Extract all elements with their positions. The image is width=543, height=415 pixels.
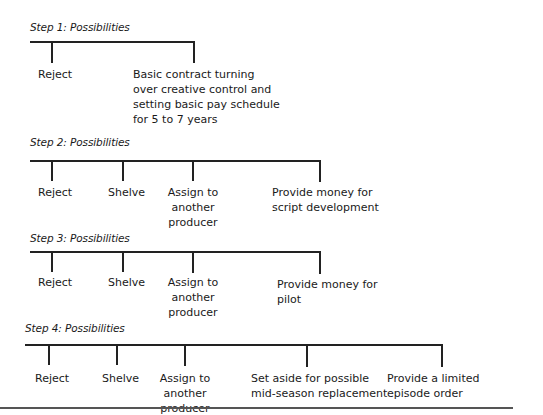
step-1-connector-1 [51,41,53,63]
step-2-title: Step 2: Possibilities [30,136,130,148]
step-1-connector-2 [193,41,195,63]
step-1-branch-line [30,41,195,43]
step-4-connector-3 [184,344,186,366]
step-4-branch-line [25,344,443,346]
step-3-connector-4 [319,251,321,274]
step-2-option-reject: Reject [38,185,72,200]
step-2-option-assign: Assign to another producer [148,185,238,230]
step-1-option-reject: Reject [38,67,72,82]
step-4-option-reject: Reject [35,371,69,386]
step-3-option-reject: Reject [38,275,72,290]
step-3-option-shelve: Shelve [108,275,145,290]
step-4-connector-4 [306,344,308,367]
step-2-branch-line [30,160,321,162]
step-2-option-shelve: Shelve [108,185,145,200]
step-4-title: Step 4: Possibilities [25,322,125,334]
step-3-connector-2 [122,251,124,272]
step-2-option-script-money: Provide money for script development [272,185,379,215]
step-1-option-basic-contract: Basic contract turning over creative con… [133,67,280,127]
step-2-connector-1 [51,160,53,181]
step-3-connector-1 [51,251,53,272]
step-1-title: Step 1: Possibilities [30,21,130,33]
step-2-connector-4 [319,160,321,182]
step-4-connector-2 [116,344,118,365]
step-3-connector-3 [192,251,194,273]
step-3-branch-line [30,251,321,253]
step-4-connector-1 [48,344,50,365]
step-3-option-assign: Assign to another producer [148,275,238,320]
step-4-option-mid-season: Set aside for possible mid-season replac… [251,371,387,401]
step-4-option-limited-order: Provide a limited episode order [387,371,479,401]
step-3-title: Step 3: Possibilities [30,232,130,244]
bottom-divider [0,407,513,409]
step-2-connector-3 [192,160,194,181]
step-4-connector-5 [441,344,443,367]
step-2-connector-2 [122,160,124,181]
step-3-option-pilot-money: Provide money for pilot [277,277,378,307]
step-4-option-shelve: Shelve [102,371,139,386]
